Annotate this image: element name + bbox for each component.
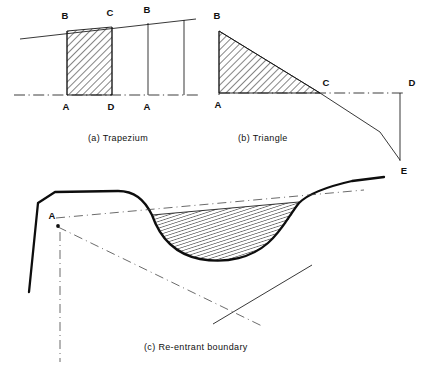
panel-c-caption: (c) Re-entrant boundary (144, 342, 248, 352)
panel-b-triangle: B C D A E (b) Triangle (214, 10, 416, 176)
panel-a-label-a-left: A (63, 101, 70, 112)
panel-a-trapezium: B C B A D A (a) Trapezium (14, 4, 200, 143)
panel-a-label-d-mid: D (108, 101, 115, 112)
panel-c-label-a-vertex: A (49, 210, 56, 221)
panel-a-label-b-left: B (62, 10, 69, 21)
panel-a-label-b-right: B (144, 4, 151, 15)
panel-b-label-c-axis: C (323, 77, 330, 88)
valley-hatched-area (145, 195, 310, 270)
panel-c-vertex-marker-a (56, 224, 60, 228)
panel-a-caption: (a) Trapezium (88, 133, 148, 143)
panel-c-reentrant-boundary: A (c) Re-entrant boundary (29, 177, 384, 362)
panel-c-cross-line (213, 265, 312, 324)
panel-b-label-d-right: D (409, 77, 416, 88)
panel-b-label-b-top: B (214, 10, 221, 21)
panel-b-label-e-bottom: E (401, 165, 407, 176)
figure-container: B C B A D A (a) Trapezium B C D (0, 0, 428, 367)
panel-a-label-a-right: A (144, 101, 151, 112)
technical-figure: B C B A D A (a) Trapezium B C D (0, 0, 428, 367)
panel-b-caption: (b) Triangle (238, 133, 288, 143)
panel-a-label-c-top: C (107, 7, 114, 18)
trapezium-hatched-area (67, 27, 112, 95)
panel-b-label-a-base: A (215, 99, 222, 110)
